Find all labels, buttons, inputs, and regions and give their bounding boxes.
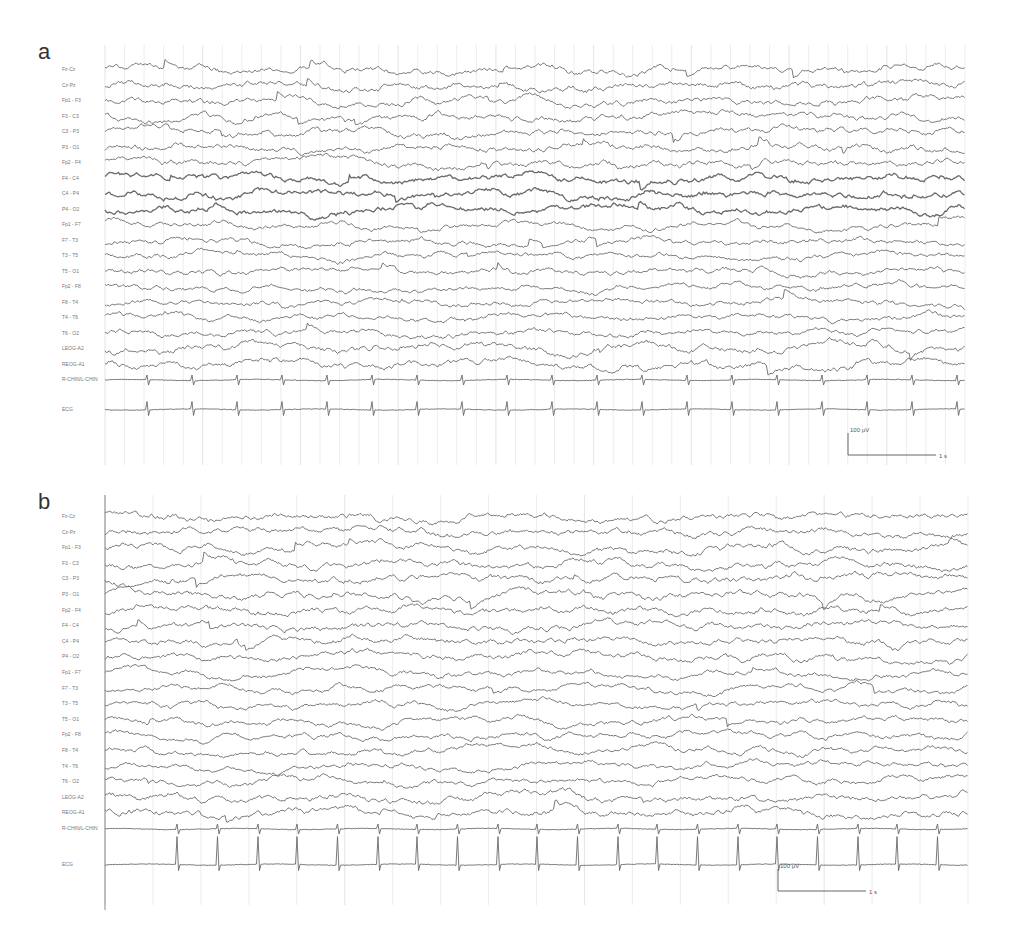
channel-label: C4 - P4: [62, 638, 79, 644]
panel-b-eeg-sleep-recording: b 100 µV1 s Fz-CzCz-PzFp1 - F3F3 - C3C3 …: [0, 495, 1010, 915]
scale-time-label: 1 s: [939, 453, 947, 459]
eeg-traces-b: 100 µV1 s: [0, 495, 1010, 915]
channel-label: F8 - T4: [62, 747, 78, 753]
channel-label: P3 - O1: [62, 591, 79, 597]
channel-label: Fp1 - F7: [62, 221, 81, 227]
channel-label: Fp1 - F3: [62, 97, 81, 103]
channel-label: REOG-A1: [62, 361, 85, 367]
channel-label: ECG: [62, 406, 73, 412]
panel-a-eeg-sleep-recording: a 100 µV1 s Fz-CzCz-PzFp1 - F3F3 - C3C3 …: [0, 45, 1010, 475]
channel-label: R-CHIN/L-CHIN: [62, 376, 98, 382]
channel-label: F7 - T3: [62, 237, 78, 243]
channel-label: Fp2 - F4: [62, 607, 81, 613]
channel-label: C3 - P3: [62, 128, 79, 134]
scale-voltage-label: 100 µV: [850, 427, 869, 433]
channel-label: F7 - T3: [62, 685, 78, 691]
channel-label: P3 - O1: [62, 144, 79, 150]
scale-bar: 100 µV1 s: [778, 863, 877, 895]
channel-label: F8 - T4: [62, 299, 78, 305]
channel-label: Fz-Cz: [62, 66, 75, 72]
channel-label: F3 - C3: [62, 113, 79, 119]
channel-label: Fp1 - F7: [62, 669, 81, 675]
channel-label: Fp2 - F8: [62, 731, 81, 737]
eeg-traces-a: 100 µV1 s: [0, 45, 1010, 475]
channel-label: T6 - O2: [62, 778, 79, 784]
channel-label: T5 - O1: [62, 268, 79, 274]
channel-label: REOG-A1: [62, 809, 85, 815]
channel-label: T4 - T6: [62, 763, 78, 769]
channel-label: Cz-Pz: [62, 529, 76, 535]
channel-label: Fp2 - F8: [62, 283, 81, 289]
channel-label: P4 - O2: [62, 206, 79, 212]
channel-label: Fz-Cz: [62, 513, 75, 519]
channel-label: F3 - C3: [62, 560, 79, 566]
scale-bar: 100 µV1 s: [848, 427, 947, 459]
channel-label: LEOG-A2: [62, 345, 84, 351]
channel-label: ECG: [62, 861, 73, 867]
channel-label: C4 - P4: [62, 190, 79, 196]
channel-label: LEOG-A2: [62, 794, 84, 800]
scale-time-label: 1 s: [869, 889, 877, 895]
channel-label: Fp2 - F4: [62, 159, 81, 165]
channel-label: Cz-Pz: [62, 82, 76, 88]
channel-label: Fp1 - F3: [62, 544, 81, 550]
channel-label: F4 - C4: [62, 622, 79, 628]
channel-label: T5 - O1: [62, 716, 79, 722]
channel-label: T4 - T6: [62, 314, 78, 320]
channel-label: T3 - T5: [62, 252, 78, 258]
scale-voltage-label: 100 µV: [780, 863, 799, 869]
channel-label: C3 - P3: [62, 575, 79, 581]
channel-label: T3 - T5: [62, 700, 78, 706]
channel-label: F4 - C4: [62, 175, 79, 181]
channel-label: R-CHIN/L-CHIN: [62, 825, 98, 831]
channel-label: P4 - O2: [62, 653, 79, 659]
channel-label: T6 - O2: [62, 330, 79, 336]
